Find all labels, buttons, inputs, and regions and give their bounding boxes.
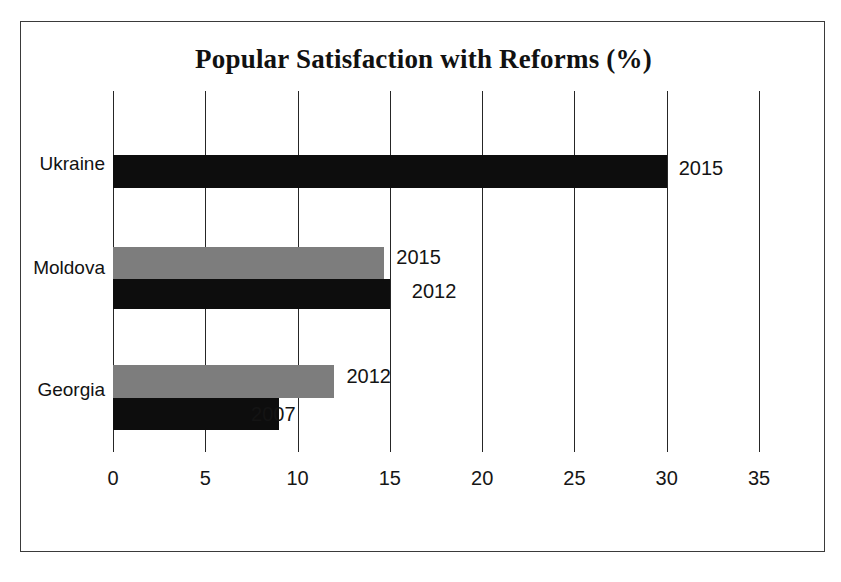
gridline-25 (574, 91, 575, 452)
bar-label-georgia-2007: 2007 (251, 403, 296, 426)
chart-frame: Popular Satisfaction with Reforms (%) Uk… (20, 21, 825, 552)
bar-label-moldova-2015: 2015 (396, 246, 441, 269)
category-label-moldova: Moldova (33, 257, 105, 279)
gridline-20 (482, 91, 483, 452)
bar-label-georgia-2012: 2012 (346, 365, 391, 388)
chart-page: Popular Satisfaction with Reforms (%) Uk… (0, 0, 841, 582)
bar-moldova-2015[interactable] (113, 247, 384, 279)
x-tick-label: 25 (563, 467, 585, 490)
x-tick-label: 5 (200, 467, 211, 490)
x-tick-label: 15 (379, 467, 401, 490)
x-tick-label: 20 (471, 467, 493, 490)
bar-georgia-2012[interactable] (113, 365, 334, 398)
category-axis-labels: UkraineMoldovaGeorgia (21, 91, 105, 452)
x-tick-label: 0 (107, 467, 118, 490)
gridline-15 (390, 91, 391, 452)
bar-ukraine-2015[interactable] (113, 155, 667, 188)
plot-area: 0510152025303520152015201220122007 (113, 91, 759, 452)
category-label-georgia: Georgia (37, 379, 105, 401)
bar-label-moldova-2012: 2012 (412, 280, 457, 303)
x-tick-label: 30 (656, 467, 678, 490)
bar-moldova-2012[interactable] (113, 279, 390, 309)
gridline-30 (667, 91, 668, 452)
gridline-35 (759, 91, 760, 452)
chart-title: Popular Satisfaction with Reforms (%) (21, 44, 826, 75)
x-tick-label: 35 (748, 467, 770, 490)
bar-label-ukraine-2015: 2015 (679, 157, 724, 180)
category-label-ukraine: Ukraine (40, 153, 105, 175)
x-tick-label: 10 (286, 467, 308, 490)
